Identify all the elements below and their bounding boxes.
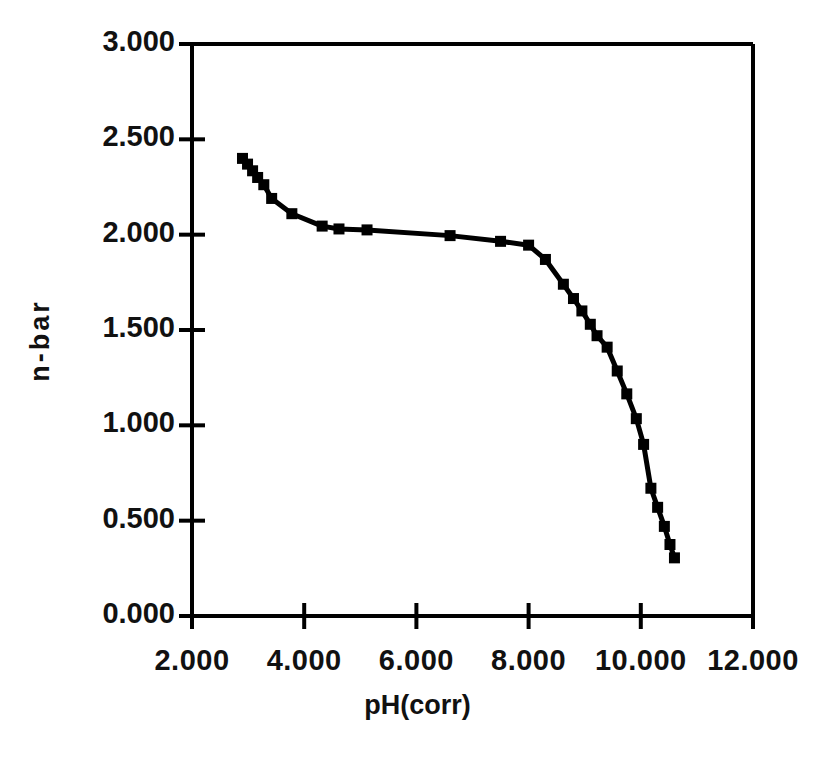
x-axis-title: pH(corr) [0, 690, 835, 721]
y-tick-label: 1.000 [40, 406, 175, 439]
x-tick-label: 12.000 [691, 644, 815, 677]
data-point-marker [645, 483, 656, 494]
data-point-marker [258, 179, 269, 190]
y-tick-label: 2.500 [40, 120, 175, 153]
y-tick-label: 2.000 [40, 216, 175, 249]
y-tick-label: 0.500 [40, 502, 175, 535]
data-point-marker [568, 293, 579, 304]
y-tick-label: 0.000 [40, 597, 175, 630]
data-point-marker [558, 279, 569, 290]
chart-container: 0.0000.5001.0001.5002.0002.5003.000 2.00… [0, 0, 835, 761]
data-point-marker [638, 439, 649, 450]
data-point-marker [540, 254, 551, 265]
data-series-line [242, 158, 674, 557]
data-point-marker [286, 208, 297, 219]
data-point-marker [631, 413, 642, 424]
data-point-marker [652, 502, 663, 513]
x-tick-label: 4.000 [242, 644, 366, 677]
data-point-marker [317, 221, 328, 232]
x-tick-label: 2.000 [130, 644, 254, 677]
data-point-marker [612, 365, 623, 376]
data-point-marker [333, 223, 344, 234]
data-point-marker [621, 388, 632, 399]
x-tick-label: 8.000 [467, 644, 591, 677]
data-point-marker [592, 330, 603, 341]
data-point-marker [523, 240, 534, 251]
data-point-marker [659, 521, 670, 532]
series-polyline [242, 158, 674, 557]
y-tick-label: 1.500 [40, 311, 175, 344]
y-axis-title: n-bar [25, 241, 56, 441]
data-point-marker [602, 342, 613, 353]
data-point-marker [664, 539, 675, 550]
data-point-marker [445, 230, 456, 241]
x-tick-label: 10.000 [579, 644, 703, 677]
data-point-marker [266, 193, 277, 204]
data-point-marker [669, 552, 680, 563]
y-tick-label: 3.000 [40, 25, 175, 58]
x-tick-label: 6.000 [354, 644, 478, 677]
data-point-marker [362, 224, 373, 235]
data-point-marker [585, 319, 596, 330]
data-point-marker [495, 236, 506, 247]
data-point-marker [576, 305, 587, 316]
